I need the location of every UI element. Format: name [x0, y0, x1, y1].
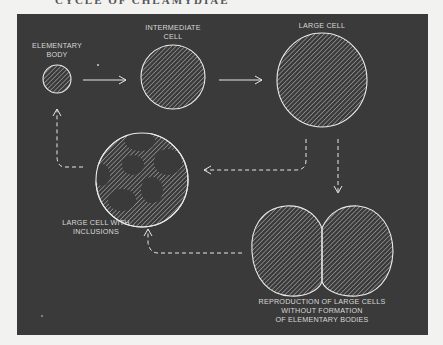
speck	[97, 64, 99, 66]
arrow-reproduction-to-inclusions	[148, 229, 242, 253]
large-cell-label: LARGE CELL	[299, 21, 345, 30]
large-cell-inclusions-node: LARGE CELL WITH INCLUSIONS	[62, 131, 188, 236]
elementary-body-label-2: BODY	[46, 50, 67, 59]
reproduction-label-3: OF ELEMENTARY BODIES	[275, 315, 368, 324]
speck	[41, 315, 43, 317]
inclusion	[108, 189, 136, 211]
intermediate-cell-label-2: CELL	[164, 32, 183, 41]
inclusion	[141, 177, 163, 203]
large-cell-node: LARGE CELL	[277, 21, 367, 127]
reproduction-label-1: REPRODUCTION OF LARGE CELLS	[259, 297, 386, 306]
elementary-body-label-1: ELEMENTARY	[32, 41, 82, 50]
intermediate-cell-node: INTERMEDIATE CELL	[141, 23, 205, 109]
intermediate-cell-label-1: INTERMEDIATE	[145, 23, 200, 32]
large-cell-inclusions-label-1: LARGE CELL WITH	[62, 218, 129, 227]
elementary-body-node: ELEMENTARY BODY	[32, 41, 82, 93]
arrow-inclusions-to-elementary	[57, 109, 83, 167]
large-cell-inclusions-label-2: INCLUSIONS	[73, 227, 119, 236]
inclusion	[154, 149, 182, 175]
reproduction-node: REPRODUCTION OF LARGE CELLS WITHOUT FORM…	[252, 206, 393, 324]
inclusion	[122, 155, 144, 175]
reproduction-label-2: WITHOUT FORMATION	[281, 306, 362, 315]
life-cycle-diagram: ELEMENTARY BODY INTERMEDIATE CELL LARGE …	[0, 0, 443, 345]
arrow-large-to-inclusions	[204, 139, 306, 170]
